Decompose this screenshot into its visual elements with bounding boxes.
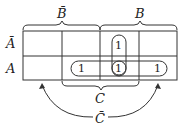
label-b: B xyxy=(134,6,145,21)
arrow-c-bar-right xyxy=(108,85,158,117)
brace-b xyxy=(100,21,177,30)
cell-0-2: 1 xyxy=(115,39,122,52)
arrow-c-bar-left xyxy=(42,85,93,117)
label-row-a: A xyxy=(5,61,15,76)
brace-c xyxy=(62,81,139,90)
label-c: C xyxy=(95,91,105,106)
label-row-not-a: Ā xyxy=(5,36,15,51)
brace-not-b xyxy=(23,21,100,30)
arrowhead-left xyxy=(39,83,45,89)
label-not-b: B̄ xyxy=(56,6,67,21)
label-c-bar: C̄ xyxy=(95,111,105,126)
karnaugh-map: B̄ B Ā A 1 1 1 1 C C̄ xyxy=(0,0,187,127)
cell-1-3: 1 xyxy=(154,62,161,75)
cell-1-1: 1 xyxy=(78,62,85,75)
arrowhead-right xyxy=(155,83,161,89)
cell-1-2: 1 xyxy=(115,62,122,75)
